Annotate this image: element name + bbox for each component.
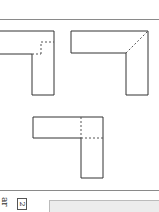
l-shape-cross-joint (33, 117, 103, 178)
figure-number-box: 2 (17, 198, 27, 210)
l-shape-miter-joint (71, 31, 148, 95)
l-shape-square-joint (0, 31, 54, 95)
bottom-rule (0, 190, 159, 191)
shaded-panel (49, 200, 159, 212)
caption-text-fragment: ar (0, 197, 10, 207)
figure-number: 2 (17, 201, 27, 206)
figure-l-shapes (0, 0, 159, 190)
